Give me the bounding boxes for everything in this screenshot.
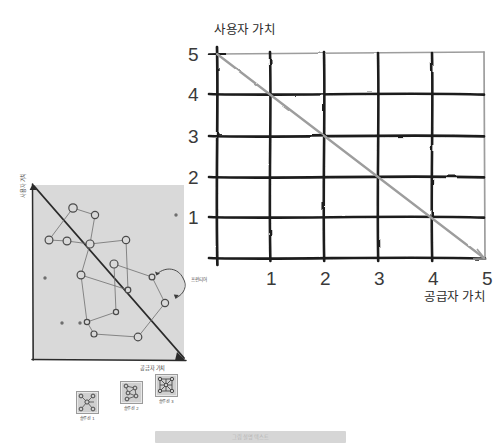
- solution-item-1[interactable]: 솔루션 1: [71, 391, 103, 421]
- scatter-point: [110, 260, 118, 268]
- y-tick-label-5: 5: [182, 44, 204, 66]
- solution-label: 솔루션 1: [71, 415, 103, 421]
- network-nodes-icon: [76, 391, 99, 414]
- scatter-dot: [78, 321, 81, 324]
- scatter-point: [149, 274, 155, 280]
- solution-label: 솔루션 2: [115, 405, 147, 411]
- y-tick-label-4: 4: [182, 84, 204, 106]
- scatter-point: [122, 236, 129, 243]
- x-tick-label-2: 2: [314, 268, 336, 290]
- scatter-dot: [43, 276, 46, 279]
- scatter-point: [63, 237, 71, 245]
- scatter-dot: [174, 213, 177, 216]
- main-chart-y-axis-title: 사용자 가치: [214, 19, 276, 38]
- x-tick-label-3: 3: [368, 268, 390, 290]
- scatter-point: [125, 287, 131, 293]
- main-chart: 5 4 3 2 1 1 2 3 4 5: [196, 16, 495, 304]
- scatter-x-axis-title: 공급자 가치: [140, 364, 165, 371]
- scatter-frontier-annotation: 프런티어: [191, 276, 207, 282]
- solution-item-2[interactable]: 솔루션 2: [115, 381, 147, 411]
- scatter-point: [161, 299, 168, 306]
- scatter-point: [91, 211, 98, 218]
- scatter-point: [84, 319, 89, 324]
- x-tick-label-1: 1: [260, 268, 282, 290]
- scatter-canvas: [20, 182, 200, 377]
- solution-item-3[interactable]: 솔루션 3: [150, 374, 182, 404]
- main-chart-x-axis-title: 공급자 가치: [424, 286, 486, 305]
- scatter-point: [69, 204, 77, 212]
- scatter-point: [45, 236, 53, 244]
- network-nodes-icon: [155, 374, 178, 397]
- scatter-y-axis-title: 사용자 가치: [19, 188, 26, 198]
- scatter-point: [86, 240, 94, 248]
- y-tick-label-3: 3: [182, 126, 204, 148]
- solution-label: 솔루션 3: [150, 398, 182, 404]
- chart-horizontal-gridlines: [209, 94, 485, 259]
- bottom-caption-bar: 그림 설명 텍스트: [155, 431, 346, 443]
- scatter-point: [91, 331, 97, 337]
- main-chart-canvas: [196, 16, 495, 304]
- scatter-point: [113, 309, 118, 314]
- scatter-thumbnail-panel: [20, 182, 200, 377]
- frontier-line: [217, 54, 485, 259]
- bottom-caption-text: 그림 설명 텍스트: [155, 431, 346, 443]
- scatter-point: [77, 271, 85, 279]
- scatter-dot: [60, 321, 63, 324]
- scatter-point: [134, 333, 142, 341]
- network-nodes-icon: [120, 381, 143, 404]
